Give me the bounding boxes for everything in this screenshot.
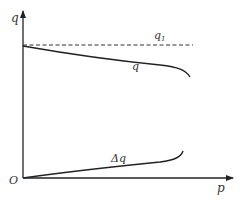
q-curve <box>23 46 190 77</box>
q1-label: q1 <box>154 29 166 43</box>
origin-label: O <box>9 174 18 187</box>
q1-label-sub: 1 <box>161 35 165 43</box>
q1-label-main: q <box>154 29 161 42</box>
delta-q-curve-label: Δq <box>110 152 126 165</box>
diagram: q p O q1 q Δq <box>0 0 242 203</box>
delta-q-curve <box>23 151 183 178</box>
q-curve-label: q <box>132 60 139 73</box>
y-axis-label: q <box>11 11 19 25</box>
x-axis-label: p <box>217 181 225 195</box>
